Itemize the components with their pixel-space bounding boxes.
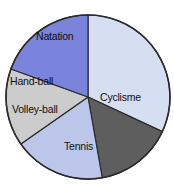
slice-label-handball: Hand-ball <box>10 76 53 87</box>
slice-label-cyclisme: Cyclisme <box>100 92 141 103</box>
pie-chart-canvas <box>0 0 174 187</box>
slice-label-volleyball: Volley-ball <box>12 104 58 115</box>
pie-chart-figure: Cyclisme Natation Hand-ball Volley-ball … <box>0 0 174 187</box>
slice-label-tennis: Tennis <box>64 141 93 152</box>
slice-label-natation: Natation <box>36 31 74 42</box>
pie-slice-group <box>6 15 170 179</box>
